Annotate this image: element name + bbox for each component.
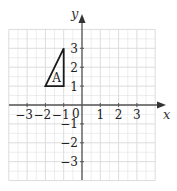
y-axis-label: y (70, 6, 79, 21)
x-tick-label: −2 (34, 108, 52, 122)
x-tick-label: 1 (96, 108, 104, 122)
y-tick-label: 3 (70, 42, 78, 56)
y-tick-label: −2 (60, 136, 78, 150)
y-tick-label: −3 (60, 155, 78, 169)
y-tick-label: 2 (70, 61, 78, 75)
x-tick-label: 3 (133, 108, 141, 122)
y-axis-arrow-icon (79, 14, 86, 23)
y-tick-label: −1 (60, 117, 78, 131)
y-tick-label: 1 (70, 80, 78, 94)
x-tick-label: −3 (15, 108, 33, 122)
coordinate-grid: x y 0 −3−2−1123321−1−2−3 A (0, 0, 177, 191)
x-axis-label: x (163, 107, 171, 122)
x-tick-label: 2 (115, 108, 123, 122)
shape-label: A (51, 71, 61, 85)
